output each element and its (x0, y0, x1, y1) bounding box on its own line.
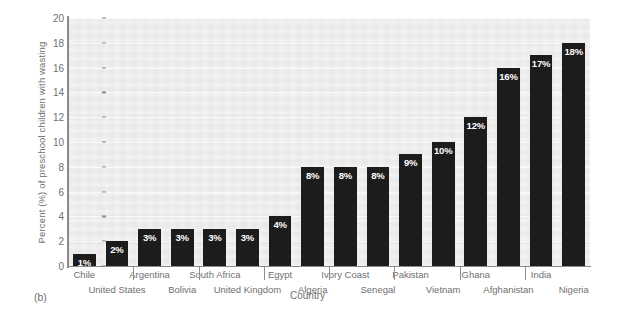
x-tick-label: United Kingdom (214, 284, 282, 295)
x-label-separator (460, 267, 461, 280)
y-axis-ticks: 02468101214161820 (38, 0, 64, 326)
x-tick-label: Ghana (462, 269, 491, 280)
bar[interactable]: 8% (301, 167, 324, 266)
y-tick-label: 4 (40, 211, 64, 222)
x-label-separator (199, 267, 200, 280)
x-tick-label: Argentina (129, 269, 170, 280)
x-tick-label: Vietnam (426, 284, 461, 295)
bar[interactable]: 9% (399, 154, 422, 266)
bar-value-label: 4% (269, 219, 292, 230)
x-label-separator (525, 267, 526, 280)
bar[interactable]: 8% (367, 167, 390, 266)
x-label-separator (394, 267, 395, 280)
bar-value-label: 16% (497, 71, 520, 82)
bar-value-label: 3% (138, 232, 161, 243)
x-axis-labels: ChileUnited StatesArgentinaBoliviaSouth … (68, 266, 590, 308)
bar[interactable]: 3% (138, 229, 161, 266)
bar-value-label: 18% (562, 46, 585, 57)
x-tick-label: Pakistan (392, 269, 428, 280)
bar[interactable]: 3% (203, 229, 226, 266)
bar[interactable]: 10% (432, 142, 455, 266)
bar[interactable]: 16% (497, 68, 520, 266)
bar[interactable]: 2% (106, 241, 129, 266)
x-axis-title: Country (290, 290, 325, 301)
bar-value-label: 17% (530, 58, 553, 69)
bar[interactable]: 12% (464, 117, 487, 266)
figure-panel: Percent (%) of preschool children with w… (0, 0, 622, 326)
y-tick-label: 0 (40, 261, 64, 272)
bar-value-label: 9% (399, 157, 422, 168)
bar[interactable]: 17% (530, 55, 553, 266)
y-tick-label: 18 (40, 37, 64, 48)
bar-value-label: 3% (171, 232, 194, 243)
x-tick-label: Senegal (361, 284, 396, 295)
bar-value-label: 12% (464, 120, 487, 131)
bar[interactable]: 4% (269, 216, 292, 266)
y-tick-label: 16 (40, 62, 64, 73)
bar[interactable]: 3% (171, 229, 194, 266)
bar-value-label: 10% (432, 145, 455, 156)
x-tick-label: South Africa (189, 269, 240, 280)
x-label-separator (133, 267, 134, 280)
y-tick-label: 10 (40, 137, 64, 148)
bar-value-label: 3% (236, 232, 259, 243)
x-label-separator (264, 267, 265, 280)
y-tick-label: 8 (40, 161, 64, 172)
y-tick-label: 14 (40, 87, 64, 98)
y-tick-label: 6 (40, 186, 64, 197)
bar-series: 1%2%3%3%3%3%4%8%8%8%9%10%12%16%17%18% (68, 18, 590, 266)
x-tick-label: Afghanistan (483, 284, 533, 295)
y-tick-label: 2 (40, 236, 64, 247)
bar-value-label: 8% (367, 170, 390, 181)
y-tick-label: 12 (40, 112, 64, 123)
bar[interactable]: 18% (562, 43, 585, 266)
x-tick-label: Chile (73, 269, 95, 280)
bar-value-label: 2% (106, 244, 129, 255)
bar-value-label: 8% (301, 170, 324, 181)
y-tick-label: 20 (40, 13, 64, 24)
x-tick-label: India (531, 269, 552, 280)
x-tick-label: Egypt (268, 269, 292, 280)
figure-caption: (b) (34, 291, 47, 303)
x-tick-label: United States (88, 284, 145, 295)
bar[interactable]: 1% (73, 254, 96, 266)
bar[interactable]: 8% (334, 167, 357, 266)
x-tick-label: Bolivia (168, 284, 196, 295)
bar[interactable]: 3% (236, 229, 259, 266)
x-label-separator (329, 267, 330, 280)
bar-value-label: 3% (203, 232, 226, 243)
x-tick-label: Nigeria (559, 284, 589, 295)
bar-value-label: 8% (334, 170, 357, 181)
